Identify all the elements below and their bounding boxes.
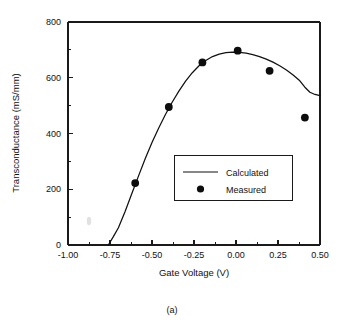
y-tick-label: 200: [46, 184, 61, 194]
x-axis-title: Gate Voltage (V): [159, 267, 229, 278]
y-axis-title: Transconductance (mS/mm): [10, 73, 21, 193]
x-tick-label: 0.00: [227, 250, 245, 260]
figure-container: 0200400600800 -1.00-0.75-0.50-0.250.000.…: [0, 0, 341, 333]
measured-data-point: [266, 67, 274, 75]
y-tick-label: 400: [46, 129, 61, 139]
figure-caption: (a): [167, 305, 178, 315]
legend-marker-swatch-measured: [197, 185, 204, 192]
measured-data-point: [199, 59, 207, 67]
measured-data-point: [165, 103, 173, 111]
y-tick-label: 600: [46, 73, 61, 83]
x-tick-label: -0.75: [100, 250, 121, 260]
measured-data-point: [301, 114, 309, 122]
transconductance-chart: 0200400600800 -1.00-0.75-0.50-0.250.000.…: [0, 0, 341, 333]
x-tick-label: -0.25: [184, 250, 205, 260]
measured-data-point: [131, 179, 139, 187]
measured-data-point: [234, 47, 242, 55]
chart-legend: Calculated Measured: [175, 156, 293, 201]
x-tick-label: -0.50: [142, 250, 163, 260]
y-tick-label: 0: [56, 240, 61, 250]
y-tick-label: 800: [46, 17, 61, 27]
ink-smudge-icon: [87, 217, 91, 225]
legend-label-measured: Measured: [226, 185, 266, 195]
x-tick-label: 0.25: [269, 250, 287, 260]
x-tick-label: 0.50: [311, 250, 329, 260]
legend-label-calculated: Calculated: [226, 168, 269, 178]
x-tick-label: -1.00: [58, 250, 79, 260]
